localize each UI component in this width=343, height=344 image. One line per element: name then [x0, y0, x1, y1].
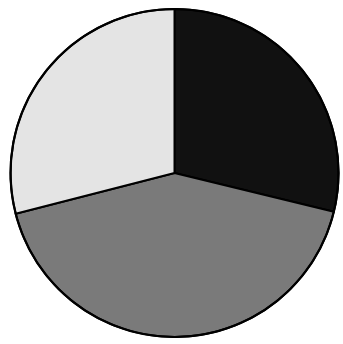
pie-slices: [10, 9, 338, 337]
pie-chart: [0, 0, 343, 344]
